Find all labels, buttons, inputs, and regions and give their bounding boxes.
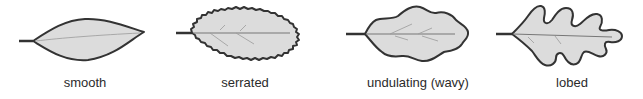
smooth-leaf-icon <box>19 19 144 60</box>
label-lobed: lobed <box>556 75 588 90</box>
label-undulating: undulating (wavy) <box>367 75 469 90</box>
serrated-leaf-icon <box>176 7 299 60</box>
label-smooth: smooth <box>64 75 107 90</box>
undulating-leaf-icon <box>346 7 468 62</box>
lobed-leaf-icon <box>496 6 622 66</box>
label-serrated: serrated <box>221 75 269 90</box>
